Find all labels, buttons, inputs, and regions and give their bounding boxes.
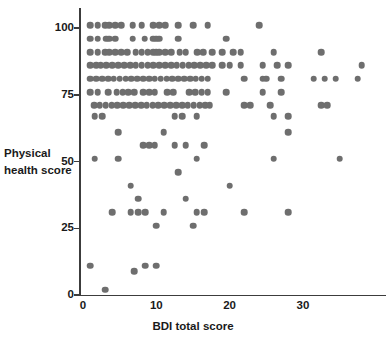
- x-axis-line: [79, 295, 386, 297]
- data-point: [259, 75, 266, 82]
- data-point: [127, 209, 134, 216]
- data-point: [138, 102, 145, 109]
- data-point: [167, 102, 174, 109]
- data-point: [226, 182, 233, 189]
- data-point: [182, 49, 189, 56]
- data-point: [116, 75, 123, 82]
- data-point: [355, 75, 362, 82]
- data-point: [87, 22, 94, 29]
- data-point: [146, 75, 153, 82]
- data-point: [155, 102, 162, 109]
- y-tick-mark: [74, 161, 79, 163]
- data-point: [152, 75, 159, 82]
- data-point: [179, 62, 186, 69]
- data-point: [168, 62, 175, 69]
- data-point: [171, 142, 178, 149]
- data-point: [150, 22, 157, 29]
- data-point: [186, 89, 193, 96]
- data-point: [106, 49, 113, 56]
- data-point: [241, 102, 248, 109]
- data-point: [127, 62, 134, 69]
- data-point: [135, 209, 142, 216]
- data-point: [94, 89, 101, 96]
- data-point: [153, 49, 160, 56]
- data-point: [175, 169, 182, 176]
- data-point: [115, 129, 122, 136]
- data-point: [201, 209, 208, 216]
- data-point: [270, 113, 277, 120]
- data-point: [87, 89, 94, 96]
- data-point: [358, 62, 365, 69]
- data-point: [87, 75, 94, 82]
- data-point: [102, 286, 109, 293]
- data-point: [263, 75, 270, 82]
- y-tick-mark: [74, 94, 79, 96]
- data-point: [121, 62, 128, 69]
- data-point: [153, 35, 160, 42]
- data-point: [130, 22, 137, 29]
- y-tick-mark: [74, 27, 79, 29]
- data-point: [150, 35, 157, 42]
- data-point: [102, 49, 109, 56]
- data-point: [138, 62, 145, 69]
- data-point: [138, 22, 145, 29]
- data-point: [187, 75, 194, 82]
- data-point: [270, 156, 277, 163]
- data-point: [131, 89, 138, 96]
- data-point: [336, 156, 343, 163]
- data-point: [97, 102, 104, 109]
- x-tick-label: 30: [296, 300, 309, 312]
- data-point: [223, 89, 230, 96]
- data-point: [324, 102, 331, 109]
- data-point: [140, 142, 147, 149]
- data-point: [203, 62, 210, 69]
- data-point: [179, 102, 186, 109]
- data-point: [267, 102, 274, 109]
- data-point: [204, 75, 211, 82]
- data-point: [97, 62, 104, 69]
- data-point: [192, 89, 199, 96]
- data-point: [219, 62, 226, 69]
- data-point: [198, 89, 205, 96]
- data-point: [110, 75, 117, 82]
- data-point: [119, 89, 126, 96]
- data-point: [106, 22, 113, 29]
- y-axis-title: Physical health score: [4, 145, 74, 178]
- data-point: [93, 75, 100, 82]
- data-point: [134, 75, 141, 82]
- data-point: [135, 196, 142, 203]
- data-point: [112, 49, 119, 56]
- data-point: [182, 142, 189, 149]
- data-point: [168, 49, 175, 56]
- data-point: [193, 156, 200, 163]
- data-point: [164, 89, 171, 96]
- data-point: [179, 113, 186, 120]
- data-point: [153, 262, 160, 269]
- data-point: [112, 35, 119, 42]
- data-point: [204, 89, 211, 96]
- data-point: [108, 102, 115, 109]
- data-point: [194, 49, 201, 56]
- data-point: [285, 113, 292, 120]
- data-point: [142, 209, 149, 216]
- data-point: [237, 49, 244, 56]
- data-point: [94, 22, 101, 29]
- data-point: [176, 49, 183, 56]
- data-point: [99, 75, 106, 82]
- data-point: [230, 49, 237, 56]
- data-point: [173, 102, 180, 109]
- data-point: [113, 89, 120, 96]
- data-point: [259, 89, 266, 96]
- data-point: [190, 222, 197, 229]
- data-point: [182, 196, 189, 203]
- data-point: [181, 75, 188, 82]
- data-point: [259, 62, 266, 69]
- data-point: [91, 113, 98, 120]
- data-point: [87, 262, 94, 269]
- data-point: [140, 89, 147, 96]
- data-point: [150, 62, 157, 69]
- data-point: [171, 113, 178, 120]
- data-point: [278, 89, 285, 96]
- data-point: [278, 75, 285, 82]
- data-point: [126, 102, 133, 109]
